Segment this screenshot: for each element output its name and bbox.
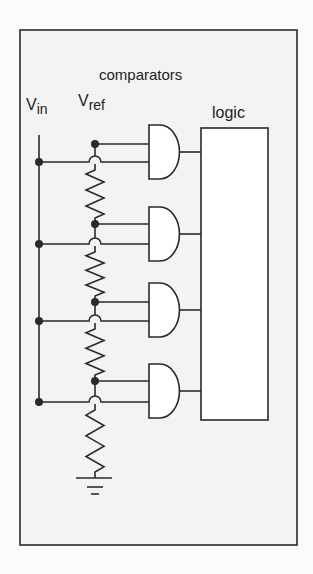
flash-adc-diagram: comparators Vin Vref logic	[0, 0, 313, 574]
vref-junction-dot	[91, 220, 99, 228]
vref-junction-dot	[91, 140, 99, 148]
logic-block	[201, 128, 268, 420]
logic-label: logic	[212, 104, 245, 121]
vin-junction-dot	[35, 158, 43, 166]
vref-junction-dot	[91, 298, 99, 306]
vref-junction-dot	[91, 377, 99, 385]
comparators-label: comparators	[99, 66, 182, 83]
vin-junction-dot	[35, 317, 43, 325]
vin-junction-dot	[35, 398, 43, 406]
vin-junction-dot	[35, 240, 43, 248]
